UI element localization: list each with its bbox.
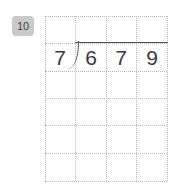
dividend-digit-3: 9	[137, 44, 167, 71]
divisor: 7	[45, 44, 75, 71]
problem-number-badge: 10	[12, 16, 34, 36]
work-grid	[45, 16, 167, 181]
dividend-digit-1: 6	[76, 44, 106, 71]
dividend-digit-2: 7	[106, 44, 136, 71]
division-bar	[75, 42, 168, 43]
